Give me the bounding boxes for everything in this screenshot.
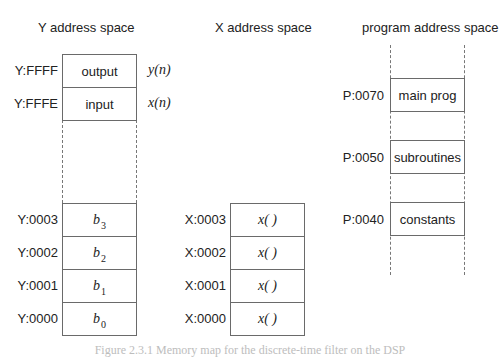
program-address-label: P:0040: [326, 212, 384, 227]
figure-caption: Figure 2.3.1 Memory map for the discrete…: [0, 343, 500, 358]
memory-cell-input: input: [62, 87, 137, 121]
memory-cell-output: output: [62, 54, 137, 88]
coefficient-subscript: 2: [101, 253, 106, 264]
program-address-label: P:0070: [326, 88, 384, 103]
program-address-label: P:0050: [326, 150, 384, 165]
y-address-label: Y:FFFF: [0, 63, 58, 78]
coefficient-subscript: 3: [101, 220, 106, 231]
x-address-space-title: X address space: [215, 20, 312, 35]
memory-cell-coefficient-b1: b1: [62, 269, 137, 303]
y-address-space-title: Y address space: [38, 20, 135, 35]
memory-cell-x-sample: x( ): [230, 236, 305, 270]
memory-cell-coefficient-b3: b3: [62, 203, 137, 237]
program-address-space-title: program address space: [362, 20, 499, 35]
y-address-label: Y:FFFE: [0, 96, 58, 111]
x-address-label: X:0003: [168, 212, 226, 227]
memory-cell-x-sample: x( ): [230, 302, 305, 336]
coefficient-base: b: [93, 245, 100, 261]
coefficient-base: b: [93, 311, 100, 327]
x-address-label: X:0000: [168, 311, 226, 326]
coefficient-subscript: 0: [101, 319, 106, 330]
y-address-label: Y:0000: [0, 311, 58, 326]
y-gap-right-dashed-line: [136, 120, 137, 203]
y-address-label: Y:0003: [0, 212, 58, 227]
signal-label-x-n: x(n): [148, 95, 171, 111]
memory-block-main-prog: main prog: [390, 78, 465, 112]
memory-cell-x-sample: x( ): [230, 269, 305, 303]
signal-label-y-n: y(n): [148, 62, 171, 78]
y-gap-left-dashed-line: [62, 120, 63, 203]
memory-cell-coefficient-b0: b0: [62, 302, 137, 336]
memory-cell-x-sample: x( ): [230, 203, 305, 237]
y-address-label: Y:0001: [0, 278, 58, 293]
y-address-label: Y:0002: [0, 245, 58, 260]
memory-cell-coefficient-b2: b2: [62, 236, 137, 270]
coefficient-base: b: [93, 278, 100, 294]
memory-block-subroutines: subroutines: [390, 140, 465, 174]
memory-block-constants: constants: [390, 202, 465, 236]
x-address-label: X:0002: [168, 245, 226, 260]
x-address-label: X:0001: [168, 278, 226, 293]
coefficient-subscript: 1: [101, 286, 106, 297]
coefficient-base: b: [93, 212, 100, 228]
